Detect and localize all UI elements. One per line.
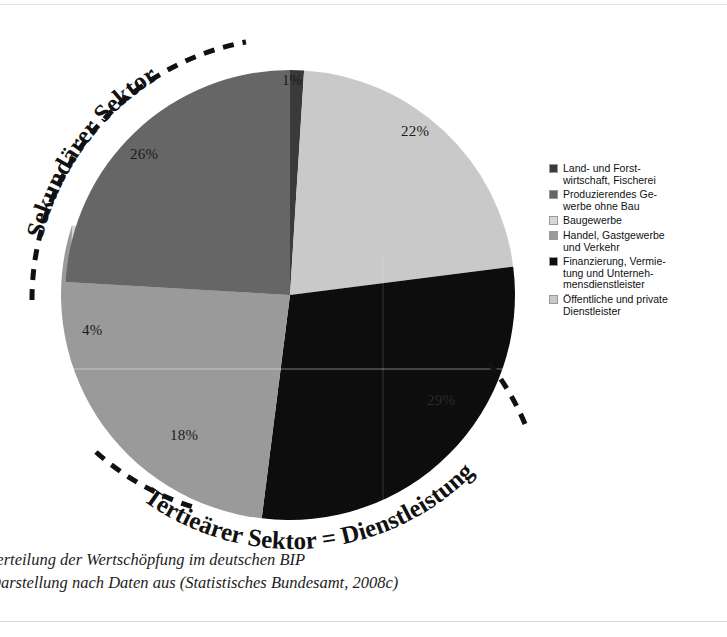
pie-slice-oeffentliche-und-private-dienstleister — [290, 70, 513, 295]
pie-slice-finanzierung-vermietung — [262, 267, 515, 520]
legend-swatch-icon — [549, 295, 558, 304]
legend-item-finanzierung-vermietung: Finanzierung, Vermie- tung und Unterneh-… — [549, 256, 721, 291]
legend-swatch-icon — [549, 257, 558, 266]
legend-item-label: Produzierendes Ge- werbe ohne Bau — [563, 189, 657, 212]
legend-item-handel-gastgewerbe-verkehr: Handel, Gastgewerbe und Verkehr — [549, 230, 721, 253]
pie-slices — [61, 70, 515, 520]
pie-label-22-percent: 22% — [401, 123, 429, 140]
pie-label-1-percent: 1% — [282, 72, 302, 89]
legend-swatch-icon — [549, 190, 558, 199]
legend-item-label: Land- und Forst- wirtschaft, Fischerei — [563, 163, 656, 186]
legend-item-label: Finanzierung, Vermie- tung und Unterneh-… — [563, 256, 666, 291]
legend-swatch-icon — [549, 164, 558, 173]
chart-legend: Land- und Forst- wirtschaft, Fischerei P… — [549, 163, 721, 320]
legend-swatch-icon — [549, 216, 558, 225]
figure-caption: 08: Verteilung der Wertschöpfung im deut… — [0, 549, 602, 594]
legend-item-label: Öffentliche und private Dienstleister — [563, 294, 668, 317]
pie-label-18-percent: 18% — [170, 427, 198, 444]
figure-caption-line-2: ene Darstellung nach Daten aus (Statisti… — [0, 573, 398, 592]
legend-item-oeffentliche-und-private-dienstleister: Öffentliche und private Dienstleister — [549, 294, 721, 317]
legend-item-produzierendes-gewerbe: Produzierendes Ge- werbe ohne Bau — [549, 189, 721, 212]
pie-label-29-percent: 29% — [427, 392, 455, 409]
legend-item-land-und-forstwirtschaft: Land- und Forst- wirtschaft, Fischerei — [549, 163, 721, 186]
legend-item-label: Baugewerbe — [563, 215, 622, 227]
figure-caption-line-1: 08: Verteilung der Wertschöpfung im deut… — [0, 550, 305, 569]
legend-item-label: Handel, Gastgewerbe und Verkehr — [563, 230, 665, 253]
bracket-arc-tertiaerer-right — [489, 363, 525, 424]
legend-item-baugewerbe: Baugewerbe — [549, 215, 721, 227]
pie-label-4-percent: 4% — [82, 322, 102, 339]
figure-pie-chart-bip: Sekundärer Sektor Tertieärer Sektor = Di… — [0, 0, 727, 637]
legend-swatch-icon — [549, 231, 558, 240]
page-bottom-rule — [0, 621, 727, 622]
pie-label-26-percent: 26% — [130, 146, 158, 163]
